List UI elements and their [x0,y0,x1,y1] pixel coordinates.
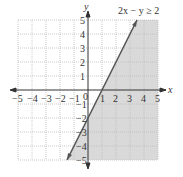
svg-text:−2: −2 [55,93,66,104]
inequality-graph: x y 2x − y ≥ 2 −5 −4 −3 −2 −1 0 1 2 3 4 … [0,0,183,177]
svg-text:−2: −2 [76,113,87,124]
svg-text:1: 1 [80,71,85,82]
svg-text:1: 1 [100,93,105,104]
svg-text:5: 5 [80,15,85,26]
x-axis-label: x [167,84,173,95]
svg-text:3: 3 [127,93,132,104]
svg-text:−5: −5 [76,155,87,166]
svg-text:2: 2 [80,57,85,68]
svg-text:−3: −3 [76,127,87,138]
svg-text:2: 2 [113,93,118,104]
svg-text:−1: −1 [76,99,87,110]
inequality-title: 2x − y ≥ 2 [118,5,159,16]
svg-text:4: 4 [80,29,85,40]
svg-text:5: 5 [155,93,160,104]
y-axis-label: y [83,1,89,12]
svg-text:−4: −4 [27,93,38,104]
svg-text:−4: −4 [76,141,87,152]
svg-text:4: 4 [141,93,146,104]
svg-text:−3: −3 [41,93,52,104]
svg-text:−5: −5 [12,93,23,104]
svg-text:3: 3 [80,43,85,54]
